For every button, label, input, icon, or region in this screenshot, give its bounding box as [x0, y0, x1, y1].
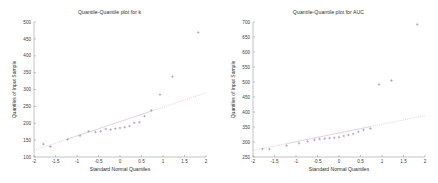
x-tick-label: -0.5: [95, 159, 103, 164]
chart-panel-k: Quantile-Quantile plot for k -2-1.5-1-0.…: [0, 0, 219, 183]
y-axis-label: Quantiles of Input Sample: [11, 61, 17, 119]
x-tick-label: -2: [32, 159, 37, 164]
y-tick-label: 600: [242, 50, 250, 55]
y-tick-label: 500: [242, 80, 250, 85]
qq-plot-figure: Quantile-Quantile plot for k -2-1.5-1-0.…: [0, 0, 438, 183]
x-axis-label: Standard Normal Quantiles: [90, 166, 151, 172]
y-tick-label: 400: [23, 53, 31, 58]
x-tick-label: -0.5: [314, 159, 322, 164]
x-tick-label: 2: [205, 159, 208, 164]
x-tick-label: 1.5: [400, 159, 407, 164]
y-tick-label: 300: [242, 140, 250, 145]
x-tick-label: 0.5: [357, 159, 364, 164]
x-tick-label: 0: [119, 159, 122, 164]
x-tick-label: 1: [162, 159, 165, 164]
plot-canvas-auc: -2-1.5-1-0.500.511.522503003504004505005…: [219, 0, 438, 183]
y-tick-label: 250: [242, 155, 250, 160]
y-tick-label: 650: [242, 35, 250, 40]
x-tick-label: -1.5: [271, 159, 279, 164]
x-tick-label: -1: [294, 159, 299, 164]
reference-line-upper: [151, 93, 206, 111]
chart-panel-auc: Quantile-Quantile plot for AUC -2-1.5-1-…: [219, 0, 438, 183]
x-tick-label: -2: [251, 159, 256, 164]
x-tick-label: 0: [338, 159, 341, 164]
y-tick-label: 450: [242, 95, 250, 100]
x-tick-label: 1: [381, 159, 384, 164]
reference-line-upper: [370, 116, 425, 127]
y-tick-label: 700: [242, 20, 250, 25]
y-tick-label: 350: [23, 70, 31, 75]
reference-line-lower: [34, 139, 68, 150]
y-axis-label: Quantiles of Input Sample: [230, 61, 236, 119]
y-tick-label: 500: [23, 20, 31, 25]
y-tick-label: 550: [242, 65, 250, 70]
y-tick-label: 150: [23, 138, 31, 143]
x-axis-label: Standard Normal Quantiles: [309, 166, 370, 172]
y-tick-label: 250: [23, 104, 31, 109]
reference-line-core: [287, 127, 371, 144]
x-tick-label: 0.5: [138, 159, 145, 164]
y-tick-label: 200: [23, 121, 31, 126]
plot-canvas-k: -2-1.5-1-0.500.511.521001502002503003504…: [0, 0, 219, 183]
data-points: [42, 31, 199, 148]
axis-spines: [34, 22, 206, 157]
x-tick-label: 2: [424, 159, 427, 164]
y-tick-label: 450: [23, 37, 31, 42]
y-tick-label: 100: [23, 155, 31, 160]
y-tick-label: 350: [242, 125, 250, 130]
y-tick-label: 300: [23, 87, 31, 92]
x-tick-label: -1: [75, 159, 80, 164]
x-tick-label: 1.5: [181, 159, 188, 164]
data-points: [261, 23, 418, 150]
x-tick-label: -1.5: [52, 159, 60, 164]
y-tick-label: 400: [242, 110, 250, 115]
